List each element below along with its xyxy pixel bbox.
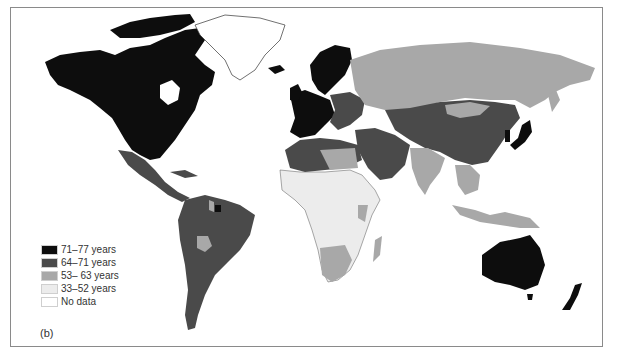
panel-label: (b) bbox=[40, 327, 53, 339]
legend-label: No data bbox=[61, 296, 96, 308]
region-new-zealand bbox=[562, 283, 582, 310]
region-tasmania bbox=[527, 294, 533, 300]
region-north-america bbox=[45, 28, 215, 160]
legend-label: 53– 63 years bbox=[61, 270, 119, 282]
legend-item: 33–52 years bbox=[41, 282, 119, 295]
region-india bbox=[410, 148, 445, 195]
legend: 71–77 years 64–71 years 53– 63 years 33–… bbox=[41, 243, 119, 308]
legend-item: 64–71 years bbox=[41, 256, 119, 269]
region-eastern-europe bbox=[330, 92, 365, 130]
legend-swatch bbox=[41, 284, 58, 294]
legend-item: No data bbox=[41, 295, 119, 308]
region-french-guiana bbox=[215, 205, 221, 212]
region-southeast-asia bbox=[455, 165, 480, 195]
region-iceland bbox=[268, 65, 285, 74]
legend-label: 33–52 years bbox=[61, 283, 116, 295]
region-korea bbox=[505, 130, 510, 142]
legend-swatch bbox=[41, 258, 58, 268]
region-australia bbox=[482, 235, 545, 290]
region-southern-africa bbox=[320, 245, 352, 282]
region-scandinavia bbox=[310, 45, 352, 95]
region-madagascar bbox=[373, 236, 382, 262]
legend-item: 71–77 years bbox=[41, 243, 119, 256]
legend-label: 64–71 years bbox=[61, 257, 116, 269]
legend-swatch bbox=[41, 297, 58, 307]
region-middle-east bbox=[355, 128, 410, 180]
region-indonesia bbox=[452, 205, 540, 228]
legend-label: 71–77 years bbox=[61, 244, 116, 256]
legend-item: 53– 63 years bbox=[41, 269, 119, 282]
region-south-america bbox=[178, 195, 255, 330]
legend-swatch bbox=[41, 271, 58, 281]
region-caribbean bbox=[170, 170, 198, 178]
region-guyana bbox=[209, 200, 214, 212]
legend-swatch bbox=[41, 245, 58, 255]
